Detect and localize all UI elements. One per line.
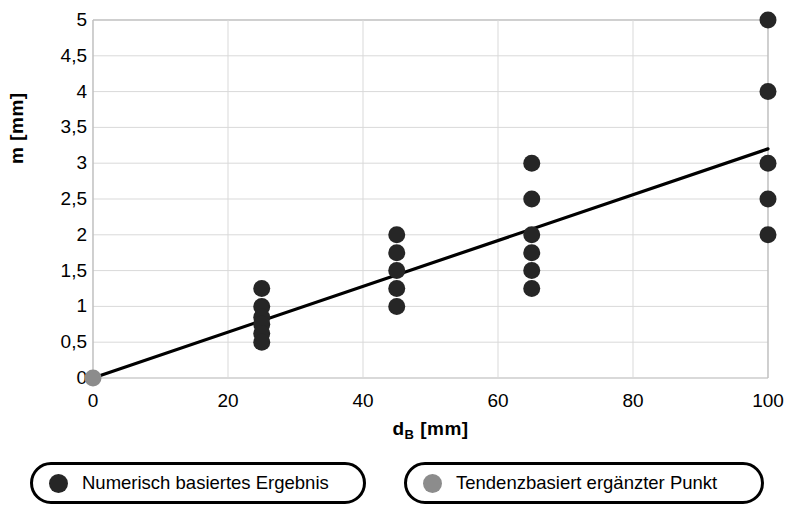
legend-item-numerisch-basiertes-ergebnis[interactable]: Numerisch basiertes Ergebnis xyxy=(30,462,366,504)
data-point xyxy=(760,12,777,29)
data-point xyxy=(760,155,777,172)
data-point xyxy=(388,262,405,279)
trendline xyxy=(93,149,768,378)
data-point xyxy=(388,298,405,315)
data-point xyxy=(85,370,102,387)
legend: Numerisch basiertes Ergebnis Tendenzbasi… xyxy=(0,462,792,520)
data-point xyxy=(253,280,270,297)
legend-item-tendenzbasiert-ergaenzter-punkt[interactable]: Tendenzbasiert ergänzter Punkt xyxy=(404,462,764,504)
data-point xyxy=(760,191,777,208)
data-point xyxy=(388,280,405,297)
legend-marker-icon-tendenz xyxy=(423,474,442,493)
legend-label-numerisch: Numerisch basiertes Ergebnis xyxy=(82,473,329,493)
legend-label-tendenz: Tendenzbasiert ergänzter Punkt xyxy=(456,473,717,493)
data-point xyxy=(523,226,540,243)
plot-area xyxy=(0,0,792,525)
data-point xyxy=(523,262,540,279)
data-point xyxy=(760,83,777,100)
data-point xyxy=(253,334,270,351)
data-point xyxy=(523,280,540,297)
horizontal-gridlines xyxy=(93,20,768,378)
data-point xyxy=(523,155,540,172)
chart-figure: m [mm] 00,511,522,533,544,55 02040608010… xyxy=(0,0,792,525)
legend-marker-icon-numerisch xyxy=(49,474,68,493)
data-point xyxy=(388,226,405,243)
data-point xyxy=(760,226,777,243)
data-point xyxy=(388,244,405,261)
data-point xyxy=(523,244,540,261)
data-point xyxy=(523,191,540,208)
